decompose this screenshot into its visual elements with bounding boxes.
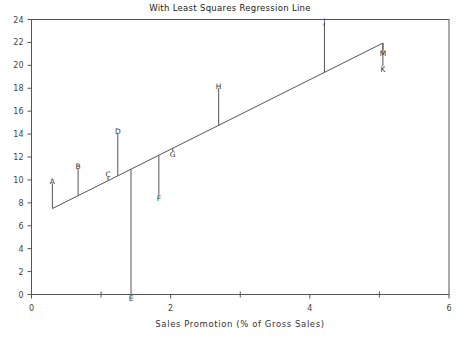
point-label-m: M xyxy=(380,49,386,58)
point-label-c: C xyxy=(105,170,110,179)
point-label-b: B xyxy=(76,162,81,171)
point-label-j: J xyxy=(322,17,325,26)
point-label-d: D xyxy=(115,127,121,136)
y-tick-label: 14 xyxy=(13,130,23,139)
point-label-h: H xyxy=(216,82,222,91)
x-tick-label: 0 xyxy=(29,304,34,313)
scatter-plot: 0246810121416182022240246ABCDEFGHJKM xyxy=(0,0,460,343)
regression-line xyxy=(52,43,383,208)
y-tick-label: 4 xyxy=(18,245,23,254)
y-tick-label: 24 xyxy=(13,16,23,25)
y-tick-label: 20 xyxy=(13,61,23,70)
point-label-e: E xyxy=(129,294,134,303)
x-axis-label: Sales Promotion (% of Gross Sales) xyxy=(0,319,460,329)
point-label-k: K xyxy=(380,65,386,74)
point-label-f: F xyxy=(157,194,161,203)
y-tick-label: 0 xyxy=(18,291,23,300)
x-tick-label: 4 xyxy=(307,304,312,313)
x-tick-label: 6 xyxy=(446,304,451,313)
y-tick-label: 18 xyxy=(13,84,23,93)
y-tick-label: 16 xyxy=(13,107,23,116)
y-tick-label: 10 xyxy=(13,176,23,185)
y-tick-label: 8 xyxy=(18,199,23,208)
y-tick-label: 22 xyxy=(13,38,23,47)
point-label-g: G xyxy=(170,150,176,159)
y-tick-label: 6 xyxy=(18,222,23,231)
plot-frame xyxy=(32,20,450,295)
y-tick-label: 2 xyxy=(18,268,23,277)
point-label-a: A xyxy=(50,177,56,186)
x-tick-label: 2 xyxy=(168,304,173,313)
y-tick-label: 12 xyxy=(13,153,23,162)
